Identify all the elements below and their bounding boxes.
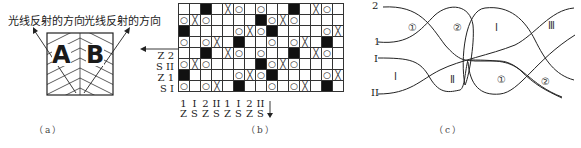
grid-cell-filled — [289, 48, 300, 59]
grid-cell-circle: ○ — [179, 59, 190, 70]
grid-cell-empty — [245, 59, 256, 70]
grid-cell-empty — [212, 26, 223, 37]
grid-cell-empty — [190, 48, 201, 59]
column-label: 1Z — [222, 99, 233, 119]
grid-cell-empty — [190, 26, 201, 37]
grid-cell-circle: ○ — [179, 37, 190, 48]
grid-cell-empty — [212, 15, 223, 26]
grid-cell-empty — [311, 37, 322, 48]
weave-grid: ╳○○╳○○╳○○╳○○╳○○╳○○╳○○╳╳○○╳○○╳○○╳○○╳○○╳○○… — [178, 3, 344, 92]
region-label: ① — [408, 22, 417, 33]
grid-cell-empty — [212, 4, 223, 15]
grid-cell-circle: ○ — [322, 26, 333, 37]
grid-cell-empty — [289, 26, 300, 37]
grid-cell-empty — [223, 59, 234, 70]
row-label-s2: S II — [146, 61, 174, 72]
grid-cell-circle: ○ — [289, 59, 300, 70]
grid-cell-empty — [311, 70, 322, 81]
grid-cell-empty — [190, 70, 201, 81]
letter-b: B — [86, 44, 104, 66]
grid-cell-circle: ○ — [234, 26, 245, 37]
grid-cell-empty — [190, 4, 201, 15]
grid-cell-empty — [223, 81, 234, 92]
grid-cell-empty — [333, 15, 344, 26]
grid-cell-filled — [267, 26, 278, 37]
grid-cell-empty — [234, 15, 245, 26]
grid-cell-filled — [322, 81, 333, 92]
grid-cell-circle: ○ — [256, 70, 267, 81]
column-label: 1Z — [178, 99, 189, 119]
grid-cell-empty — [333, 4, 344, 15]
grid-cell-empty — [190, 81, 201, 92]
grid-cell-empty — [311, 81, 322, 92]
grid-cell-circle: ○ — [267, 15, 278, 26]
grid-cell-empty — [234, 59, 245, 70]
grid-cell-circle: ○ — [289, 81, 300, 92]
grid-cell-circle: ○ — [179, 15, 190, 26]
grid-cell-empty — [278, 26, 289, 37]
grid-cell-filled — [322, 37, 333, 48]
grid-cell-cross: ╳ — [190, 59, 201, 70]
column-label: IIS — [255, 99, 266, 119]
grid-cell-empty — [333, 37, 344, 48]
grid-cell-empty — [201, 70, 212, 81]
grid-cell-circle: ○ — [267, 81, 278, 92]
grid-cell-empty — [245, 4, 256, 15]
grid-cell-empty — [245, 15, 256, 26]
grid-cell-cross: ╳ — [223, 48, 234, 59]
grid-cell-cross: ╳ — [278, 59, 289, 70]
grid-cell-cross: ╳ — [311, 4, 322, 15]
region-label: ② — [541, 76, 550, 87]
row-label-s1: S I — [146, 83, 174, 94]
grid-cell-empty — [256, 81, 267, 92]
grid-cell-empty — [212, 48, 223, 59]
grid-cell-circle: ○ — [289, 37, 300, 48]
grid-cell-empty — [212, 59, 223, 70]
grid-cell-empty — [311, 59, 322, 70]
grid-cell-empty — [278, 70, 289, 81]
grid-cell-filled — [179, 70, 190, 81]
grid-cell-empty — [311, 15, 322, 26]
region-label: ① — [497, 74, 506, 85]
caption-c: （c） — [434, 123, 463, 136]
grid-cell-circle: ○ — [256, 4, 267, 15]
grid-cell-filled — [201, 4, 212, 15]
grid-cell-filled — [179, 26, 190, 37]
grid-cell-empty — [245, 48, 256, 59]
grid-cell-filled — [256, 15, 267, 26]
grid-cell-filled — [256, 59, 267, 70]
grid-cell-circle: ○ — [201, 15, 212, 26]
grid-cell-empty — [300, 70, 311, 81]
grid-cell-empty — [300, 59, 311, 70]
grid-cell-empty — [190, 37, 201, 48]
panel-a: 光线反射的方向 光线反射的方向 A — [0, 0, 140, 148]
grid-cell-empty — [289, 70, 300, 81]
region-label: Ⅰ — [394, 71, 397, 82]
grid-row: ╳○○╳○ — [179, 48, 344, 59]
grid-cell-empty — [333, 81, 344, 92]
region-label: Ⅲ — [548, 20, 555, 31]
grid-cell-cross: ╳ — [223, 4, 234, 15]
grid-cell-circle: ○ — [289, 15, 300, 26]
grid-cell-filled — [267, 70, 278, 81]
arrow-down-icon — [267, 101, 275, 119]
grid-cell-circle: ○ — [322, 70, 333, 81]
grid-row: ○╳○○╳○ — [179, 59, 344, 70]
grid-cell-circle: ○ — [322, 48, 333, 59]
grid-row: ○╳○○╳ — [179, 70, 344, 81]
grid-cell-empty — [322, 59, 333, 70]
grid-row: ╳○○╳○ — [179, 4, 344, 15]
grid-cell-empty — [278, 37, 289, 48]
grid-cell-empty — [223, 37, 234, 48]
grid-cell-filled — [289, 4, 300, 15]
grid-cell-cross: ╳ — [333, 26, 344, 37]
panel-c: 2 1 I II （c） — [350, 0, 581, 148]
grid-cell-empty — [300, 48, 311, 59]
grid-cell-empty — [223, 26, 234, 37]
caption-b: （b） — [246, 123, 276, 136]
region-label: Ⅱ — [450, 74, 455, 85]
grid-cell-circle: ○ — [234, 4, 245, 15]
grid-cell-empty — [245, 37, 256, 48]
grid-cell-circle: ○ — [201, 59, 212, 70]
column-label: IIS — [211, 99, 222, 119]
